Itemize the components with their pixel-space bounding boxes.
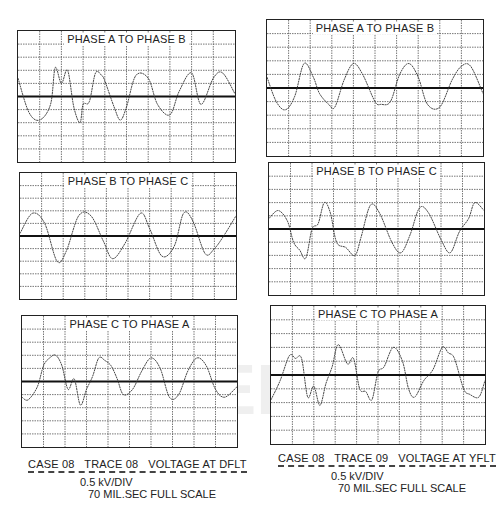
oscilloscope-trace <box>269 163 484 295</box>
caption-left-time: 70 MIL.SEC FULL SCALE <box>88 488 247 500</box>
panel-title: PHASE B TO PHASE C <box>65 175 192 187</box>
panel-title: PHASE B TO PHASE C <box>313 165 440 177</box>
oscilloscope-trace <box>20 173 236 299</box>
scope-panel-right-ca: PHASE C TO PHASE A <box>270 305 486 445</box>
caption-right-divider <box>278 465 496 467</box>
scope-panel-left-ca: PHASE C TO PHASE A <box>21 315 238 448</box>
scope-panel-left-ab: PHASE A TO PHASE B <box>17 30 236 163</box>
caption-left-title: CASE 08 TRACE 08 VOLTAGE AT DFLT <box>28 458 247 470</box>
oscilloscope-trace <box>267 20 483 156</box>
caption-right-title: CASE 08 TRACE 09 VOLTAGE AT YFLT <box>278 452 496 464</box>
panel-title: PHASE A TO PHASE B <box>313 22 438 34</box>
caption-left-scale: 0.5 kV/DIV <box>80 476 247 488</box>
caption-left-divider <box>28 471 247 473</box>
caption-right-scale: 0.5 kV/DIV <box>331 470 496 482</box>
caption-left: CASE 08 TRACE 08 VOLTAGE AT DFLT 0.5 kV/… <box>28 458 247 500</box>
panel-title: PHASE C TO PHASE A <box>67 318 193 330</box>
panel-title: PHASE C TO PHASE A <box>315 308 441 320</box>
scope-panel-right-ab: PHASE A TO PHASE B <box>266 19 484 157</box>
panel-title: PHASE A TO PHASE B <box>64 33 189 45</box>
scope-panel-left-bc: PHASE B TO PHASE C <box>19 172 237 300</box>
oscilloscope-trace <box>18 31 235 162</box>
caption-right-time: 70 MIL.SEC FULL SCALE <box>338 482 496 494</box>
oscilloscope-trace <box>22 316 237 447</box>
caption-right: CASE 08 TRACE 09 VOLTAGE AT YFLT 0.5 kV/… <box>278 452 496 494</box>
scope-panel-right-bc: PHASE B TO PHASE C <box>268 162 485 296</box>
oscilloscope-trace <box>271 306 485 444</box>
